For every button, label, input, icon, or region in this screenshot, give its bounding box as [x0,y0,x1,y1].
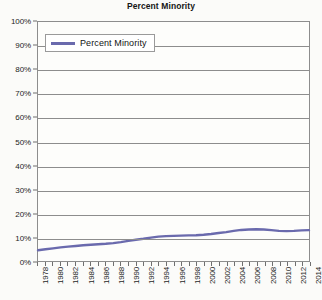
x-tick-label: 2006 [253,267,262,284]
x-tick-label: 1984 [87,267,96,284]
x-tick-mark [60,262,61,266]
x-tick-mark [280,262,281,266]
y-tick-label: 30% [15,185,31,194]
y-tick-label: 10% [15,233,31,242]
y-tick-label: 60% [15,113,31,122]
x-tick-mark [90,262,91,266]
gridline [38,215,309,216]
x-tick-label: 2008 [269,267,278,284]
x-tick-label: 1986 [102,267,111,284]
gridline [38,143,309,144]
x-tick-mark [189,262,190,266]
x-tick-mark [211,262,212,266]
x-tick-mark [166,262,167,266]
gridline [38,94,309,95]
x-tick-mark [204,262,205,266]
x-tick-label: 1990 [132,267,141,284]
gridline [38,239,309,240]
y-tick-label: 0% [20,258,31,267]
x-tick-mark [174,262,175,266]
x-tick-mark [158,262,159,266]
x-tick-mark [143,262,144,266]
x-tick-label: 1992 [147,267,156,284]
x-tick-mark [75,262,76,266]
plot-area [37,21,310,262]
y-tick-label: 100% [11,17,31,26]
x-tick-label: 2010 [284,267,293,284]
chart-container: Percent Minority 0%10%20%30%40%50%60%70%… [0,0,322,300]
x-tick-mark [257,262,258,266]
x-tick-mark [265,262,266,266]
x-tick-mark [37,262,38,266]
x-tick-mark [234,262,235,266]
x-tick-mark [219,262,220,266]
x-tick-mark [242,262,243,266]
x-tick-mark [105,262,106,266]
x-tick-label: 1988 [117,267,126,284]
x-tick-mark [302,262,303,266]
x-tick-mark [310,262,311,266]
gridline [38,167,309,168]
x-tick-label: 1996 [178,267,187,284]
x-tick-mark [120,262,121,266]
x-tick-label: 2000 [208,267,217,284]
x-tick-mark [181,262,182,266]
gridline [38,191,309,192]
legend-label-percent-minority: Percent Minority [80,38,147,48]
x-tick-label: 1978 [41,267,50,284]
x-tick-mark [249,262,250,266]
x-tick-mark [98,262,99,266]
x-tick-mark [52,262,53,266]
x-tick-mark [151,262,152,266]
x-tick-label: 2004 [238,267,247,284]
x-tick-mark [227,262,228,266]
x-tick-label: 2014 [314,267,322,284]
chart-legend: Percent Minority [45,34,155,52]
y-tick-label: 20% [15,209,31,218]
x-tick-mark [83,262,84,266]
y-axis: 0%10%20%30%40%50%60%70%80%90%100% [0,21,37,262]
series-line-percent-minority [38,22,309,261]
x-tick-label: 1982 [71,267,80,284]
x-tick-mark [196,262,197,266]
x-tick-mark [45,262,46,266]
x-tick-mark [67,262,68,266]
x-tick-label: 1994 [162,267,171,284]
x-tick-mark [128,262,129,266]
legend-swatch-percent-minority [51,42,75,45]
gridline [38,70,309,71]
x-tick-mark [136,262,137,266]
x-tick-label: 2012 [299,267,308,284]
x-tick-mark [287,262,288,266]
x-tick-mark [272,262,273,266]
y-tick-label: 40% [15,161,31,170]
x-tick-label: 1998 [193,267,202,284]
x-tick-mark [295,262,296,266]
gridline [38,118,309,119]
chart-title: Percent Minority [0,1,322,11]
x-tick-label: 1980 [56,267,65,284]
y-tick-label: 80% [15,65,31,74]
x-axis-labels: 1978198019821984198619881990199219941996… [37,267,310,300]
x-tick-label: 2002 [223,267,232,284]
y-tick-label: 90% [15,41,31,50]
x-tick-mark [113,262,114,266]
y-tick-label: 70% [15,89,31,98]
y-tick-label: 50% [15,137,31,146]
